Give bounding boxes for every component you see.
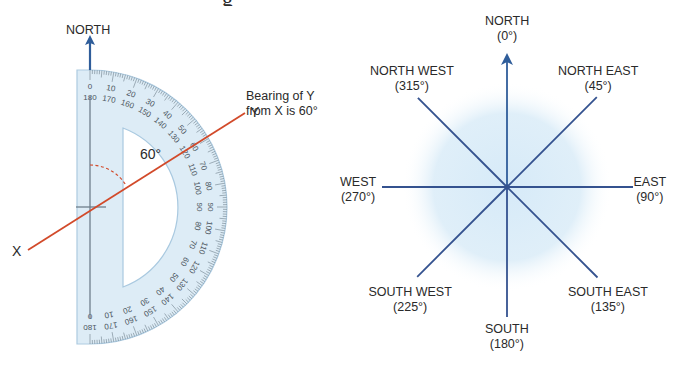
direction-degrees: (180°) <box>485 337 529 352</box>
direction-name: SOUTH EAST <box>568 285 648 300</box>
direction-name: NORTH WEST <box>370 64 454 79</box>
direction-degrees: (45°) <box>558 79 638 94</box>
direction-name: EAST <box>634 175 667 190</box>
compass-label-south: SOUTH(180°) <box>485 322 529 352</box>
direction-name: SOUTH <box>485 322 529 337</box>
bearings-diagram: g 01801017020160301504014050130601207011… <box>0 0 678 368</box>
direction-degrees: (90°) <box>634 190 667 205</box>
compass-center-dot <box>505 185 510 190</box>
direction-degrees: (135°) <box>568 300 648 315</box>
direction-degrees: (0°) <box>485 29 529 44</box>
direction-name: WEST <box>340 175 376 190</box>
compass-label-south-east: SOUTH EAST(135°) <box>568 285 648 315</box>
direction-degrees: (225°) <box>369 300 452 315</box>
direction-name: SOUTH WEST <box>369 285 452 300</box>
compass-label-west: WEST(270°) <box>340 175 376 205</box>
compass-label-north-east: NORTH EAST(45°) <box>558 64 638 94</box>
compass-label-east: EAST(90°) <box>634 175 667 205</box>
compass-label-north-west: NORTH WEST(315°) <box>370 64 454 94</box>
direction-degrees: (315°) <box>370 79 454 94</box>
direction-degrees: (270°) <box>340 190 376 205</box>
compass-label-north: NORTH(0°) <box>485 14 529 44</box>
compass-label-south-west: SOUTH WEST(225°) <box>369 285 452 315</box>
direction-name: NORTH <box>485 14 529 29</box>
direction-name: NORTH EAST <box>558 64 638 79</box>
